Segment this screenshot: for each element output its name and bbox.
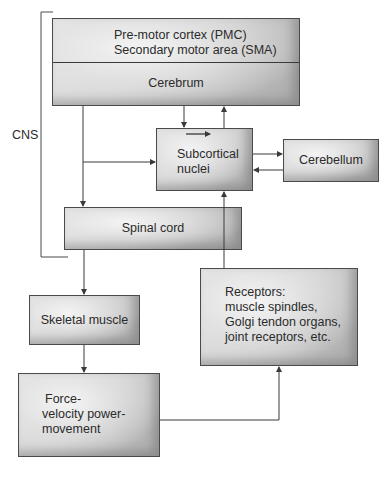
spinal-cord-label: Spinal cord [65, 221, 241, 236]
receptors-line-2: muscle spindles, [225, 300, 317, 315]
subcortical-nuclei-box: Subcortical nuclei [156, 128, 253, 191]
arrow-force-to-receptors [160, 367, 279, 420]
cerebrum-label: Cerebrum [53, 76, 299, 91]
force-line-2: velocity power- [42, 407, 125, 422]
cortex-line-2: Secondary motor area (SMA) [114, 43, 277, 58]
cns-label: CNS [12, 128, 38, 142]
skeletal-muscle-label: Skeletal muscle [30, 313, 139, 328]
receptors-line-1: Receptors: [225, 285, 285, 300]
subcortical-line-1: Subcortical [177, 147, 239, 162]
receptors-box: Receptors: muscle spindles, Golgi tendon… [200, 268, 358, 366]
receptors-line-4: joint receptors, etc. [225, 330, 331, 345]
force-velocity-box: Force- velocity power- movement [18, 373, 160, 457]
cortex-line-1: Pre-motor cortex (PMC) [114, 28, 247, 43]
diagram-canvas: CNS Pre-motor cortex (PMC) Secondary mot… [0, 0, 389, 481]
subcortical-line-2: nuclei [177, 162, 210, 177]
skeletal-muscle-box: Skeletal muscle [29, 295, 140, 345]
spinal-cord-box: Spinal cord [64, 207, 242, 250]
force-line-1: Force- [45, 392, 81, 407]
cerebellum-label: Cerebellum [284, 153, 378, 168]
cerebellum-box: Cerebellum [283, 139, 379, 182]
cortex-divider [53, 62, 299, 63]
force-line-3: movement [42, 422, 100, 437]
cortex-cerebrum-box: Pre-motor cortex (PMC) Secondary motor a… [52, 18, 300, 106]
receptors-line-3: Golgi tendon organs, [225, 315, 341, 330]
